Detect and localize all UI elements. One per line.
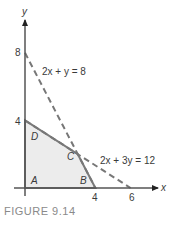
vertex-label-b: B xyxy=(80,175,87,186)
vertex-label-a: A xyxy=(30,175,38,186)
y-tick-4: 4 xyxy=(15,116,21,127)
line-label-constraint-1: 2x + y = 8 xyxy=(42,66,86,77)
figure-plot: x y 8 4 4 6 2x + y = 8 2x + 3y = 12 A B … xyxy=(0,0,177,225)
y-tick-8: 8 xyxy=(15,47,21,58)
y-axis-label: y xyxy=(21,6,28,17)
line-label-constraint-2: 2x + 3y = 12 xyxy=(100,155,155,166)
x-tick-6: 6 xyxy=(129,192,135,203)
x-axis-label: x xyxy=(160,182,167,193)
x-tick-4: 4 xyxy=(92,192,98,203)
vertex-label-c: C xyxy=(67,151,75,162)
figure-caption: FIGURE 9.14 xyxy=(4,205,76,217)
vertex-label-d: D xyxy=(31,131,38,142)
